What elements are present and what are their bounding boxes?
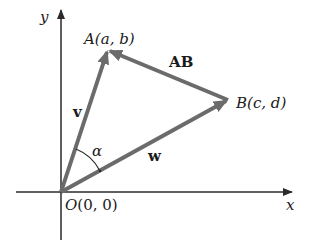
angle-arc-end-dot [99, 170, 102, 173]
point-a-label: A(a, b) [82, 30, 135, 48]
angle-alpha-label: α [92, 142, 102, 160]
vector-w-label: w [147, 147, 162, 165]
vector-diagram: y x O(0, 0) A(a, b) B(c, d) v w AB α [0, 0, 312, 251]
y-axis-label: y [39, 8, 49, 26]
vector-v-label: v [72, 103, 83, 121]
origin-label: O(0, 0) [65, 196, 118, 214]
x-axis-label: x [286, 196, 295, 214]
vector-ab-label: AB [168, 53, 193, 71]
point-b-label: B(c, d) [235, 94, 286, 112]
